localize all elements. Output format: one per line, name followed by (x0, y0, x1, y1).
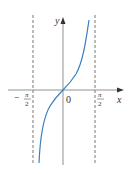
neg-pi-num: π (25, 91, 29, 99)
x-axis-label: x (116, 94, 122, 105)
pos-pi-den: 2 (98, 100, 102, 108)
origin-label: 0 (66, 94, 71, 105)
y-axis-label: y (54, 15, 60, 26)
y-axis-arrow (61, 17, 66, 24)
neg-sign: − (14, 92, 20, 103)
tangent-graph: y x 0 − π 2 π 2 (0, 0, 131, 174)
tangent-curve (39, 20, 89, 163)
x-axis-arrow (117, 88, 124, 93)
pos-pi-num: π (98, 91, 102, 99)
neg-pi-den: 2 (25, 100, 29, 108)
